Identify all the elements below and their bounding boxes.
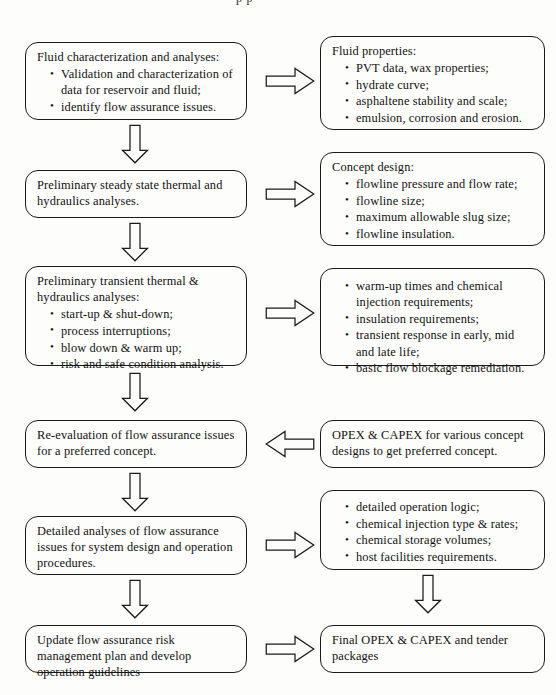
flowchart-page: p p Fluid characterization and analyses:… [0,0,556,695]
list-item: warm-up times and chemical injection req… [345,278,535,310]
box-bullet-list: warm-up times and chemical injection req… [332,278,535,376]
arrow-right-row-6 [265,634,315,664]
list-item: risk and safe condition analysis. [50,356,237,372]
list-item: chemical injection type & rates; [345,516,535,532]
output-box-row-2: Concept design: flowline pressure and fl… [320,152,545,246]
box-header: Fluid properties: [332,43,535,59]
list-item: maximum allowable slug size; [345,209,535,225]
output-box-row-1: Fluid properties: PVT data, wax properti… [320,36,545,130]
box-bullet-list: PVT data, wax properties; hydrate curve;… [332,60,535,126]
list-item: transient response in early, mid and lat… [345,327,535,359]
list-item: flowline insulation. [345,226,535,242]
box-header: Fluid characterization and analyses: [37,49,237,65]
arrow-right-row-5 [265,530,315,560]
process-box-row-6: Update flow assurance risk management pl… [25,625,247,673]
box-bullet-list: start-up & shut-down; process interrupti… [37,306,237,372]
list-item: insulation requirements; [345,311,535,327]
arrow-down-left-1 [119,124,151,164]
list-item: asphaltene stability and scale; [345,93,535,109]
arrow-down-left-4 [119,472,151,512]
clipped-top-text: p p [236,0,253,6]
arrow-right-row-1 [265,66,315,96]
arrow-down-right-1 [412,574,444,614]
box-text: Preliminary steady state thermal and hyd… [37,177,237,209]
arrow-down-left-2 [119,222,151,262]
arrow-right-row-3 [265,298,315,328]
process-box-row-3: Preliminary transient thermal & hydrauli… [25,266,247,366]
list-item: host facilities requirements. [345,549,535,565]
box-bullet-list: flowline pressure and flow rate; flowlin… [332,176,535,242]
process-box-row-4: Re-evaluation of flow assurance issues f… [25,420,247,468]
box-text: Update flow assurance risk management pl… [37,632,237,680]
list-item: start-up & shut-down; [50,306,237,322]
arrow-down-left-5 [119,579,151,619]
box-header: Concept design: [332,159,535,175]
arrow-right-row-2 [265,179,315,209]
arrow-down-left-3 [119,372,151,412]
list-item: PVT data, wax properties; [345,60,535,76]
arrow-left-row-4 [265,429,315,459]
list-item: process interruptions; [50,323,237,339]
list-item: basic flow blockage remediation. [345,360,535,376]
process-box-row-5: Detailed analyses of flow assurance issu… [25,516,247,575]
output-box-row-3: warm-up times and chemical injection req… [320,268,545,366]
list-item: identify flow assurance issues. [50,99,237,115]
box-bullet-list: detailed operation logic; chemical injec… [332,499,535,565]
box-bullet-list: Validation and characterization of data … [37,66,237,115]
list-item: flowline size; [345,193,535,209]
list-item: flowline pressure and flow rate; [345,176,535,192]
output-box-row-4: OPEX & CAPEX for various concept designs… [320,420,545,468]
list-item: hydrate curve; [345,77,535,93]
process-box-row-1: Fluid characterization and analyses: Val… [25,42,247,120]
output-box-row-5: detailed operation logic; chemical injec… [320,490,545,570]
process-box-row-2: Preliminary steady state thermal and hyd… [25,170,247,218]
box-text: OPEX & CAPEX for various concept designs… [332,427,535,459]
list-item: blow down & warm up; [50,340,237,356]
box-text: Final OPEX & CAPEX and tender packages [332,632,535,664]
list-item: chemical storage volumes; [345,532,535,548]
list-item: detailed operation logic; [345,499,535,515]
box-text: Detailed analyses of flow assurance issu… [37,523,237,571]
output-box-row-6: Final OPEX & CAPEX and tender packages [320,625,545,673]
box-text: Re-evaluation of flow assurance issues f… [37,427,237,459]
box-header: Preliminary transient thermal & hydrauli… [37,273,237,305]
list-item: emulsion, corrosion and erosion. [345,110,535,126]
list-item: Validation and characterization of data … [50,66,237,98]
